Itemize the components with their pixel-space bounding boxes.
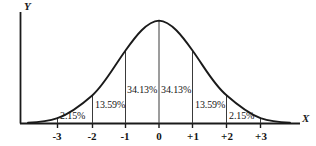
x-tick-label-plus3: +3 — [255, 131, 267, 142]
x-tick-label-minus3: -3 — [52, 131, 61, 142]
percent-label-minus3-minus2: 2.15% — [60, 111, 85, 121]
x-tick-label-plus2: +2 — [221, 131, 233, 142]
percent-label-minus2-minus1: 13.59% — [95, 100, 125, 110]
percent-label-plus2-plus3: 2.15% — [229, 111, 254, 121]
chart-canvas — [0, 0, 316, 146]
x-tick-label-plus1: +1 — [187, 131, 199, 142]
x-tick-label-minus2: -2 — [87, 131, 96, 142]
y-axis-label: Y — [24, 1, 31, 12]
normal-distribution-chart: Y X -3 -2 -1 0 +1 +2 +3 2.15% 13.59% 34.… — [0, 0, 316, 146]
percent-label-plus1-plus2: 13.59% — [195, 100, 225, 110]
percent-label-zero-plus1: 34.13% — [161, 85, 191, 95]
x-tick-label-minus1: -1 — [120, 131, 129, 142]
x-axis-label: X — [302, 113, 309, 124]
x-tick-label-zero: 0 — [156, 131, 162, 142]
percent-label-minus1-zero: 34.13% — [127, 85, 157, 95]
